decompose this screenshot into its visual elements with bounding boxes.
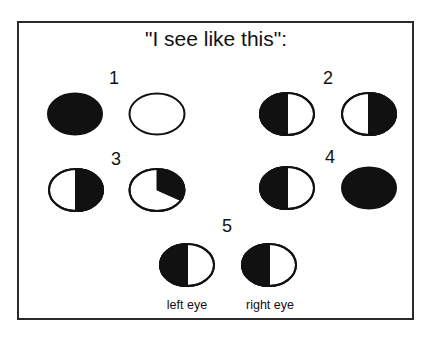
panel-3-right-eye-icon [130,169,185,211]
panel-4-right-eye-icon [342,168,396,209]
eye-diagrams [0,0,432,345]
panel-2-right-eye-icon [342,93,396,135]
panel-1-left-eye-icon [48,94,102,135]
panel-2-left-eye-icon [260,93,314,135]
panel-4-left-eye-icon [260,167,314,209]
panel-5-left-eye-icon [160,244,214,286]
panel-1-right-eye-icon [130,94,185,135]
panel-5-right-eye-icon [242,244,296,286]
panel-3-left-eye-icon [49,169,103,211]
